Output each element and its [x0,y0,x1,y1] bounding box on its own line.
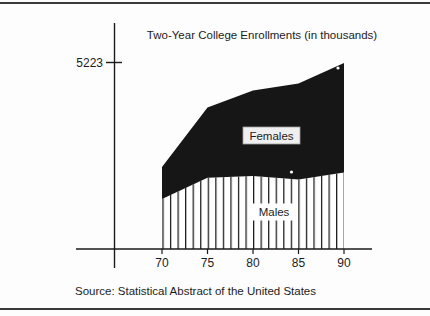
x-axis-tick-label: 80 [246,256,260,270]
x-axis-tick-label: 90 [337,256,351,270]
source-caption: Source: Statistical Abstract of the Unit… [75,285,316,297]
x-axis-tick-label: 70 [155,256,169,270]
y-axis-tick-label: 5223 [76,56,103,70]
chart-title: Two-Year College Enrollments (in thousan… [147,29,378,41]
figure-panel: Two-Year College Enrollments (in thousan… [0,0,430,316]
x-axis-tick-label: 85 [292,256,306,270]
data-point-marker [290,170,293,173]
x-axis-ticks [162,249,344,254]
males-label: Males [259,206,290,218]
x-axis-tick-labels: 7075808590 [155,256,351,270]
females-label: Females [249,130,293,142]
enrollment-area-chart: Two-Year College Enrollments (in thousan… [0,0,430,316]
x-axis-tick-label: 75 [201,256,215,270]
data-point-marker [336,66,339,69]
